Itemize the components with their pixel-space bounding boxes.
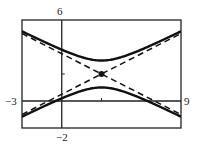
hyperbola-plot (0, 0, 201, 146)
xmin-label: −3 (5, 96, 17, 107)
xmax-label: 9 (184, 96, 190, 107)
ymin-label: −2 (56, 132, 68, 143)
center-point (99, 71, 105, 77)
ymax-label: 6 (57, 6, 63, 17)
